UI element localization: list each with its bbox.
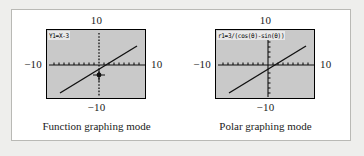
calculator-screen-polar[interactable]: r1=3/(cos(θ)-sin(θ)) <box>215 29 315 99</box>
equation-text: Y1=X-3 <box>49 32 69 38</box>
range-label-right: 10 <box>315 59 346 70</box>
range-label-left: −10 <box>185 59 215 70</box>
graph-plot-function <box>47 30 146 99</box>
panel-caption: Polar graphing mode <box>219 120 311 132</box>
equation-bar: Y1=X-3 <box>48 31 70 40</box>
panel-polar-mode: 10 −10 <box>186 10 346 140</box>
screen-row: −10 <box>16 29 177 99</box>
cursor-marker <box>93 69 105 81</box>
panel-function-mode: 10 −10 <box>17 10 177 140</box>
panel-caption: Function graphing mode <box>42 120 150 132</box>
range-label-top: 10 <box>260 15 271 26</box>
equation-bar: r1=3/(cos(θ)-sin(θ)) <box>217 31 285 40</box>
range-label-bottom: −10 <box>257 102 275 113</box>
figure-card: 10 −10 <box>11 9 351 141</box>
graph-plot-polar <box>216 30 315 99</box>
range-label-top: 10 <box>91 15 102 26</box>
calculator-screen-function[interactable]: Y1=X-3 <box>46 29 146 99</box>
equation-text: r1=3/(cos(θ)-sin(θ)) <box>218 32 284 38</box>
screen-row: −10 <box>185 29 346 99</box>
range-label-bottom: −10 <box>88 102 106 113</box>
panel-container: 10 −10 <box>12 10 350 140</box>
range-label-right: 10 <box>146 59 177 70</box>
range-label-left: −10 <box>16 59 46 70</box>
